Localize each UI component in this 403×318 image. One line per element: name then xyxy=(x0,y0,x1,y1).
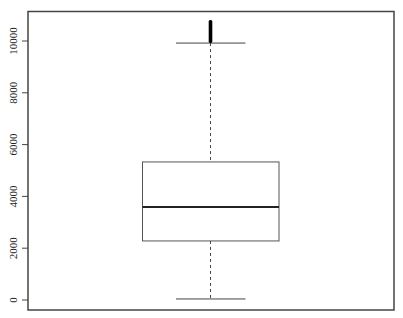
y-tick-label: 8000 xyxy=(7,81,19,104)
box-series xyxy=(143,20,280,299)
y-axis: 0200040006000800010000 xyxy=(7,27,28,303)
boxplot-chart: 0200040006000800010000 xyxy=(0,0,403,318)
y-tick-label: 0 xyxy=(7,297,19,303)
y-tick-label: 10000 xyxy=(7,27,19,55)
iqr-box xyxy=(143,162,280,241)
y-tick-label: 6000 xyxy=(7,133,19,156)
outlier-points xyxy=(209,20,213,43)
y-tick-label: 2000 xyxy=(7,237,19,260)
y-tick-label: 4000 xyxy=(7,185,19,208)
